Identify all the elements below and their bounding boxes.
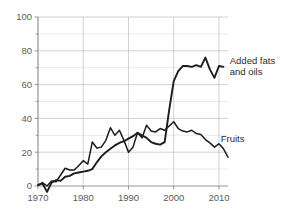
series-annotation-fats: Added fats bbox=[230, 55, 276, 66]
chart-container: 020406080100 19701980199020002010 Added … bbox=[0, 0, 298, 221]
series-annotations: Added fatsand oilsFruits bbox=[221, 55, 276, 144]
y-axis-tick-label: 60 bbox=[21, 79, 32, 90]
y-axis-tick-label: 0 bbox=[27, 180, 32, 191]
y-axis-tick-labels: 020406080100 bbox=[16, 11, 32, 191]
series-annotation-fats-line2: and oils bbox=[230, 66, 263, 77]
gridlines-minor bbox=[38, 34, 228, 169]
x-axis-tick-label: 1980 bbox=[73, 192, 94, 203]
y-axis-tick-label: 80 bbox=[21, 45, 32, 56]
x-axis-tick-label: 1970 bbox=[27, 192, 48, 203]
x-axis-tick-labels: 19701980199020002010 bbox=[27, 192, 229, 203]
line-chart: 020406080100 19701980199020002010 Added … bbox=[0, 0, 298, 221]
x-axis-tick-label: 2010 bbox=[208, 192, 229, 203]
y-axis-tick-label: 20 bbox=[21, 147, 32, 158]
x-axis-tick-label: 2000 bbox=[163, 192, 184, 203]
y-axis-tick-label: 40 bbox=[21, 113, 32, 124]
x-axis-tick-label: 1990 bbox=[118, 192, 139, 203]
data-series-lines bbox=[38, 58, 228, 192]
axis-tick-marks bbox=[35, 17, 219, 190]
series-line-added-fats-and-oils bbox=[38, 58, 223, 192]
y-axis-tick-label: 100 bbox=[16, 11, 32, 22]
series-annotation-fruits: Fruits bbox=[221, 133, 245, 144]
